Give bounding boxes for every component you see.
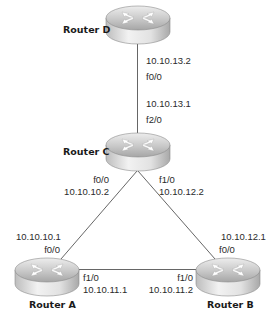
router-d-icon — [106, 6, 170, 44]
router-c-f0-interface-label: f0/0 — [93, 174, 109, 185]
router-a-f1-ip-label: 10.10.11.1 — [83, 284, 127, 295]
router-b-f0-interface-label: f0/0 — [219, 244, 235, 255]
router-b-f0-ip-label: 10.10.12.1 — [221, 231, 266, 242]
router-a-f0-ip-label: 10.10.10.1 — [16, 231, 61, 242]
router-c-f1-ip-label: 10.10.12.2 — [159, 186, 204, 197]
router-c-f1-interface-label: f1/0 — [159, 174, 175, 185]
router-d-label: Router D — [63, 24, 110, 36]
router-b-label: Router B — [207, 299, 254, 311]
router-b-f1-ip-label: 10.10.11.2 — [149, 284, 193, 295]
router-c-label: Router C — [63, 146, 110, 158]
link-c-b — [138, 171, 215, 259]
router-a-f1-interface-label: f1/0 — [83, 272, 99, 283]
router-c-f0-ip-label: 10.10.10.2 — [64, 186, 109, 197]
router-c-icon — [106, 133, 170, 171]
router-a-icon — [15, 258, 79, 296]
router-b-f1-interface-label: f1/0 — [177, 272, 193, 283]
router-c-f2-interface-label: f2/0 — [146, 114, 162, 125]
network-diagram — [0, 0, 277, 327]
router-a-label: Router A — [29, 299, 76, 311]
router-c-f2-ip-label: 10.10.13.1 — [146, 98, 191, 109]
router-d-interface-label: f0/0 — [146, 71, 162, 82]
router-a-f0-interface-label: f0/0 — [44, 244, 60, 255]
router-b-icon — [196, 258, 260, 296]
router-d-ip-label: 10.10.13.2 — [146, 55, 191, 66]
